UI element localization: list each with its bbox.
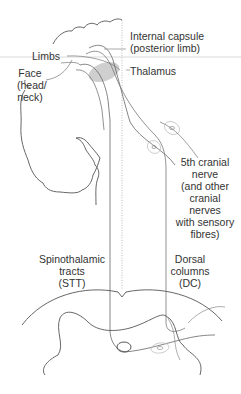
thalamus-label: Thalamus <box>130 65 176 77</box>
grey-matter <box>43 312 201 375</box>
cranial-nerve-label: 5th cranial nerve (and other cranial ner… <box>168 156 241 240</box>
dc-label: Dorsal columns (DC) <box>168 253 212 289</box>
dorsal-root <box>188 307 225 323</box>
face-label: Face (head/ neck) <box>17 67 43 103</box>
stt-label: Spinothalamic tracts (STT) <box>36 253 108 289</box>
stt-nucleus <box>117 342 131 352</box>
cortex-outline <box>53 19 122 44</box>
spinal-cord-outline <box>22 290 222 325</box>
face-profile <box>21 90 100 205</box>
internal-capsule-label: Internal capsule (posterior limb) <box>130 30 204 54</box>
limbs-label: Limbs <box>32 50 60 62</box>
